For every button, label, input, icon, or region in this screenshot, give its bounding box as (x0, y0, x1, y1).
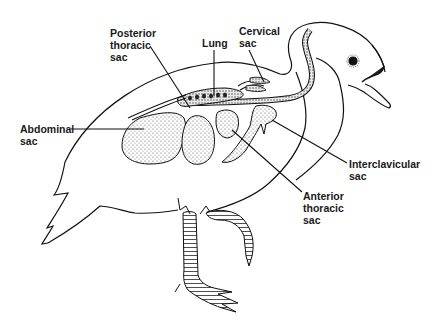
leader-anterior-thoracic (232, 130, 302, 192)
label-posterior-thoracic-sac: Posterior thoracic sac (110, 27, 156, 63)
anterior-thoracic-sac-shape (216, 110, 239, 138)
label-anterior-thoracic-sac: Anterior thoracic sac (303, 190, 344, 226)
head (347, 45, 390, 108)
eye-icon (349, 57, 357, 65)
legs (183, 210, 253, 312)
label-interclavicular-sac: Interclavicular sac (349, 158, 420, 182)
air-sac-diagram: Posterior thoracic sac Lung Cervical sac… (0, 0, 438, 329)
label-abdominal-sac: Abdominal sac (20, 123, 74, 147)
leader-interclavicular (272, 120, 347, 163)
posterior-thoracic-sac-shape (182, 116, 214, 165)
abdominal-sac-shape (122, 113, 186, 164)
label-lung: Lung (202, 37, 228, 49)
label-cervical-sac: Cervical sac (239, 25, 280, 49)
